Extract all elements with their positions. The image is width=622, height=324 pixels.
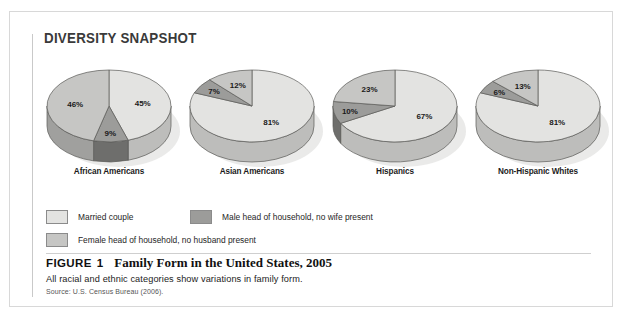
pie-category-label: African Americans [34,167,184,176]
page-title: DIVERSITY SNAPSHOT [44,29,197,47]
slice-percent-label: 7% [208,87,220,96]
slice-percent-label: 45% [135,99,151,108]
slice-percent-label: 10% [342,107,358,116]
caption-figure-number: 1 [97,257,103,269]
caption-divider [46,253,591,254]
legend-item-male[interactable]: Male head of household, no wife present [190,208,373,225]
slice-percent-label: 67% [416,112,432,121]
figure-caption: FIGURE1Family Form in the United States,… [46,255,591,295]
pie-svg: 81%6%13% [463,54,613,172]
caption-source: Source: U.S. Census Bureau (2006). [46,288,591,295]
left-accent-rule [32,34,33,297]
pie-svg: 81%7%12% [177,54,327,172]
caption-title: Family Form in the United States, 2005 [114,255,332,270]
slice-percent-label: 81% [549,118,565,127]
pie-svg: 67%10%23% [320,54,470,172]
caption-headline: FIGURE1Family Form in the United States,… [46,255,591,271]
slice-percent-label: 6% [494,88,506,97]
legend-label-male: Male head of household, no wife present [222,212,373,222]
pie-chart-1: 45%9%46%African Americans [34,54,184,186]
legend-label-married: Married couple [78,212,133,222]
legend-swatch-male [190,210,212,224]
caption-subtitle: All racial and ethnic categories show va… [46,274,591,284]
pie-chart-2: 81%7%12%Asian Americans [177,54,327,186]
pie-category-label: Non-Hispanic Whites [463,167,613,176]
legend-item-married[interactable]: Married couple [46,208,133,225]
legend: Married coupleMale head of household, no… [46,208,606,252]
figure-panel: DIVERSITY SNAPSHOT 45%9%46%African Ameri… [9,11,613,307]
legend-swatch-married [46,210,68,224]
slice-percent-label: 13% [515,82,531,91]
slice-percent-label: 46% [67,100,83,109]
legend-item-female[interactable]: Female head of household, no husband pre… [46,231,256,248]
slice-percent-label: 81% [263,118,279,127]
pie-chart-4: 81%6%13%Non-Hispanic Whites [463,54,613,186]
legend-swatch-female [46,233,68,247]
pie-chart-group: 45%9%46%African Americans81%7%12%Asian A… [34,54,610,186]
pie-category-label: Asian Americans [177,167,327,176]
pie-chart-3: 67%10%23%Hispanics [320,54,470,186]
pie-svg: 45%9%46% [34,54,184,172]
caption-figure-word: FIGURE [46,257,92,269]
pie-category-label: Hispanics [320,167,470,176]
slice-percent-label: 12% [230,81,246,90]
legend-label-female: Female head of household, no husband pre… [78,235,256,245]
slice-percent-label: 9% [105,129,117,138]
slice-percent-label: 23% [362,85,378,94]
